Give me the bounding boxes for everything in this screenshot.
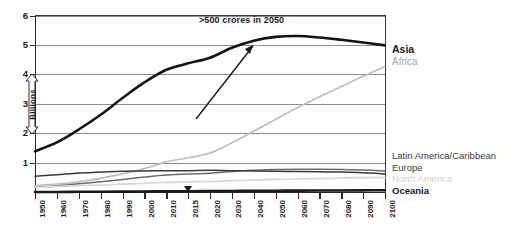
series-label-oceania: Oceania [392, 186, 429, 196]
plot-right-border [385, 15, 386, 193]
xtick-label-2000: 2000 [148, 200, 156, 218]
xtick-label-2080: 2080 [345, 200, 353, 218]
xtick-label-2050: 2050 [279, 200, 287, 218]
xtick-mark-2090 [363, 193, 364, 199]
xtick-mark-2040 [254, 193, 255, 199]
series-label-europe: Europe [392, 163, 423, 173]
xtick-mark-1950 [35, 193, 36, 199]
xtick-mark-2030 [232, 193, 233, 199]
xtick-mark-2080 [341, 193, 342, 199]
xtick-mark-1970 [79, 193, 80, 199]
xtick-label-2015: 2015 [192, 200, 200, 218]
series-label-north-america: North America [392, 174, 452, 184]
xtick-mark-2070 [319, 193, 320, 199]
xtick-mark-2015 [188, 193, 189, 199]
ytick-mark-1 [30, 163, 35, 164]
ytick-label-6: 6 [12, 11, 28, 21]
xtick-label-1960: 1960 [60, 200, 68, 218]
xtick-label-2040: 2040 [257, 200, 265, 218]
xtick-mark-1960 [57, 193, 58, 199]
series-label-africa: Africa [392, 57, 418, 68]
y-axis-title: Billions [25, 74, 39, 134]
series-label-asia: Asia [392, 44, 414, 55]
annotation-callout: >500 crores in 2050 [199, 15, 284, 25]
y-axis-title-text: Billions [28, 89, 37, 120]
xtick-label-2090: 2090 [367, 200, 375, 218]
ytick-label-5: 5 [12, 40, 28, 50]
xtick-label-1950: 1950 [39, 200, 47, 218]
current-year-marker [184, 186, 192, 192]
ytick-label-1: 1 [12, 158, 28, 168]
xtick-mark-2060 [298, 193, 299, 199]
xtick-label-2100: 2100 [389, 200, 397, 218]
xtick-label-2030: 2030 [235, 200, 243, 218]
ytick-mark-5 [30, 45, 35, 46]
plot-area [35, 16, 385, 193]
xtick-label-2010: 2010 [170, 200, 178, 218]
xtick-mark-2010 [166, 193, 167, 199]
xtick-mark-1990 [123, 193, 124, 199]
series-label-latin-america: Latin America/Caribbean [392, 151, 496, 161]
xtick-label-2020: 2020 [214, 200, 222, 218]
xtick-mark-2100 [385, 193, 386, 199]
xtick-mark-1980 [101, 193, 102, 199]
population-projection-chart: 6 5 4 3 2 1 Billions >500 crores in 2050… [0, 0, 515, 232]
xtick-mark-2050 [276, 193, 277, 199]
xtick-mark-2000 [144, 193, 145, 199]
xtick-label-2070: 2070 [323, 200, 331, 218]
xtick-label-1980: 1980 [104, 200, 112, 218]
xtick-mark-2020 [210, 193, 211, 199]
xtick-label-1990: 1990 [126, 200, 134, 218]
ytick-mark-6 [30, 16, 35, 17]
xtick-label-1970: 1970 [82, 200, 90, 218]
xtick-label-2060: 2060 [301, 200, 309, 218]
